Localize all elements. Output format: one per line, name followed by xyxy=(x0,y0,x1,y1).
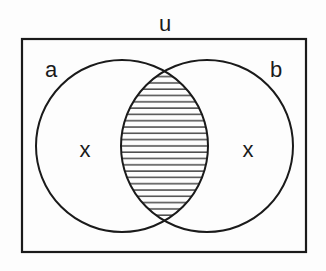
set-a-label: a xyxy=(45,57,58,82)
set-b-mark: x xyxy=(243,137,254,162)
set-a-mark: x xyxy=(80,137,91,162)
venn-diagram: u a b x x xyxy=(0,0,326,271)
set-b-label: b xyxy=(270,57,282,82)
universe-label: u xyxy=(159,11,171,36)
